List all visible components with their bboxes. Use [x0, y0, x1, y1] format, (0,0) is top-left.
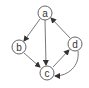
node-b: b — [12, 40, 26, 54]
node-d: d — [68, 37, 82, 51]
node-b-label: b — [16, 42, 22, 53]
graph-diagram: a b c d — [0, 0, 89, 88]
node-a: a — [38, 6, 52, 20]
node-c-label: c — [45, 68, 50, 79]
node-a-label: a — [42, 8, 48, 19]
edge-d-to-a — [51, 18, 70, 38]
node-d-label: d — [72, 39, 78, 50]
edge-a-to-c — [45, 20, 46, 65]
edge-d-to-c-curved — [55, 51, 78, 76]
edge-b-to-c — [24, 53, 40, 67]
edge-a-to-b — [24, 19, 40, 41]
edge-c-to-d — [53, 50, 69, 67]
node-c: c — [40, 66, 54, 80]
